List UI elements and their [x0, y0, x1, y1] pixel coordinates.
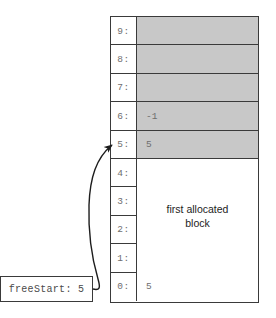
allocated-block-line1: first allocated — [167, 203, 229, 215]
diagram-canvas: 9:8:7:6:-15:54:3:2:1:0:5 first allocated… — [0, 0, 276, 318]
arrow-path — [89, 145, 112, 289]
memory-row-index: 8: — [111, 45, 137, 73]
memory-row-index: 7: — [111, 74, 137, 102]
free-start-label: freeStart: 5 — [9, 284, 85, 295]
memory-row-value — [137, 45, 258, 73]
free-start-box: freeStart: 5 — [0, 276, 93, 302]
memory-row-value: 5 — [137, 131, 258, 159]
memory-row: 5:5 — [111, 131, 258, 159]
allocated-block-label: first allocated block — [167, 202, 229, 230]
allocated-block-cell: first allocated block — [138, 160, 258, 274]
memory-row-index: 1: — [111, 244, 137, 272]
memory-row-index: 3: — [111, 187, 137, 215]
memory-row-value — [137, 74, 258, 102]
memory-row-index: 6: — [111, 102, 137, 130]
memory-row-value: -1 — [137, 102, 258, 130]
memory-row-index: 2: — [111, 216, 137, 244]
memory-row-value — [137, 17, 258, 45]
memory-row: 7: — [111, 74, 258, 102]
memory-row: 6:-1 — [111, 102, 258, 130]
memory-row-index: 0: — [111, 273, 137, 301]
memory-row-value: 5 — [137, 273, 258, 301]
allocated-block-line2: block — [185, 217, 210, 229]
memory-row-index: 4: — [111, 159, 137, 187]
memory-row: 9: — [111, 17, 258, 45]
memory-row-index: 5: — [111, 131, 137, 159]
memory-row: 8: — [111, 45, 258, 73]
memory-row: 0:5 — [111, 273, 258, 301]
memory-row-index: 9: — [111, 17, 137, 45]
